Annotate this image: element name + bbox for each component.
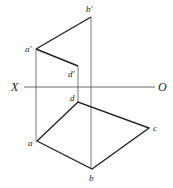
label-d: d [70,93,75,103]
label-a-prime: a' [25,44,33,54]
edge-a'-d' [36,49,78,66]
label-b: b [89,173,94,183]
label-a: a [28,138,33,148]
label-b-prime: b' [86,4,94,14]
axis-label-x: X [10,80,19,94]
projection-diagram: X O b' a' d' d a c b [0,0,173,188]
edge-a'-b' [36,17,91,49]
axis-label-o: O [158,80,167,94]
top-view-quadrilateral [37,102,149,169]
label-c: c [153,123,157,133]
label-d-prime: d' [68,69,76,79]
